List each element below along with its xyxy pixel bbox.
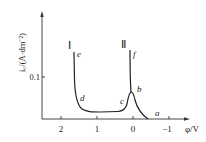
point-d-label: d — [80, 93, 85, 103]
x-axis-label: φ/V — [185, 124, 200, 134]
x-tick-minus1: −1 — [162, 124, 172, 134]
x-tick-1: 1 — [95, 124, 100, 134]
curve-II-label: Ⅱ — [121, 38, 126, 50]
point-b-label: b — [137, 84, 142, 94]
point-c-label: c — [120, 96, 124, 106]
curve-II-rise — [130, 50, 131, 92]
axes — [40, 11, 190, 121]
y-axis-label: i꜀/(A·dm⁻²) — [17, 33, 27, 72]
y-axis-arrow — [40, 11, 43, 17]
point-e-label: e — [77, 49, 81, 59]
x-tick-0: 0 — [131, 124, 136, 134]
point-a-label: a — [155, 108, 160, 118]
x-axis-arrow — [184, 117, 190, 120]
x-tick-2: 2 — [59, 124, 64, 134]
curve-I-label: Ⅰ — [68, 39, 71, 51]
y-tick-0.1: 0.1 — [29, 72, 40, 82]
curve-I — [74, 52, 118, 112]
point-f-label: f — [133, 49, 137, 59]
chart: Ⅰ Ⅱ e f d c b a 2 1 0 −1 φ/V 0.1 i꜀/(A·d… — [0, 0, 206, 142]
